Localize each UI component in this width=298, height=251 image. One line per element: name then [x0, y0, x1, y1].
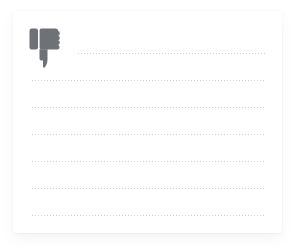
ruled-line: [32, 187, 265, 189]
ruled-line: [32, 106, 265, 108]
thumbs-down-icon[interactable]: [29, 27, 63, 69]
ruled-line: [32, 214, 265, 216]
screen-root: [0, 0, 298, 251]
ruled-line: [32, 79, 265, 81]
ruled-line: [78, 52, 265, 54]
ruled-line: [32, 133, 265, 135]
ruled-line: [32, 160, 265, 162]
note-card: [13, 11, 282, 233]
